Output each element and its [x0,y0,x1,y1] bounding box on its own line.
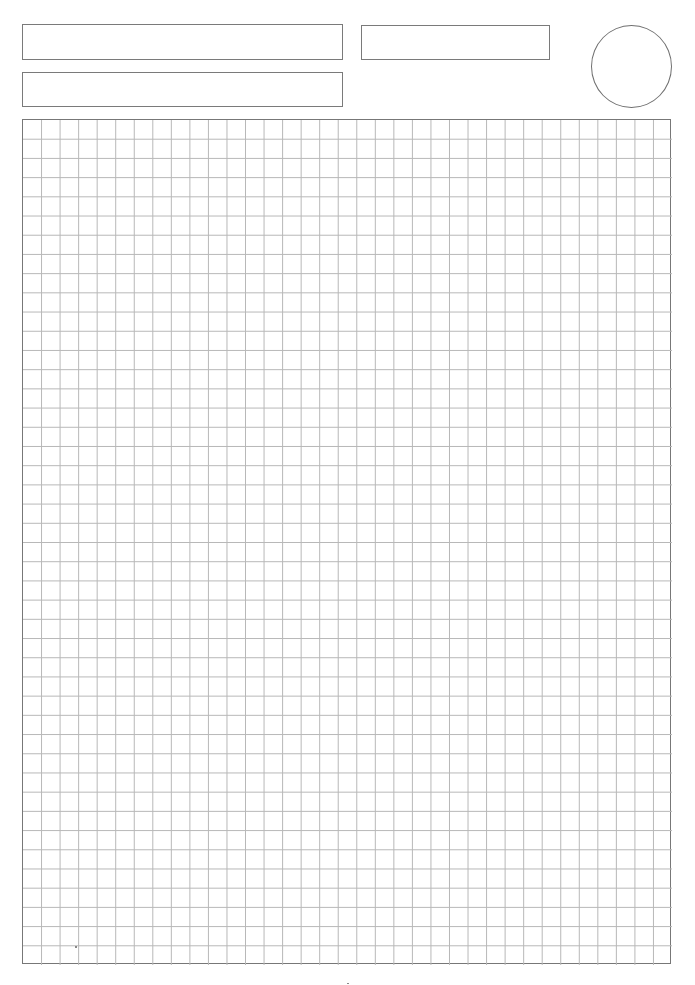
date-field[interactable] [361,25,550,60]
subject-field[interactable] [22,72,343,107]
page-mark [347,983,349,984]
name-field[interactable] [22,24,343,60]
graph-paper-grid[interactable] [22,119,671,964]
photo-circle[interactable] [591,25,672,108]
grid-lines [23,120,672,965]
stray-dot [75,946,77,948]
